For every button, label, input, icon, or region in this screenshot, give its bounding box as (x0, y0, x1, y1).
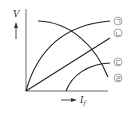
label-d: ㄹ (114, 74, 122, 83)
label-a: ㄱ (114, 17, 122, 26)
svg-text:ㄴ: ㄴ (115, 30, 121, 38)
y-axis-label: V (13, 9, 21, 19)
characteristic-curve-diagram: V If ㄱ ㄴ ㄷ ㄹ (0, 0, 132, 115)
svg-text:ㄱ: ㄱ (115, 18, 121, 26)
x-arrowhead-icon (71, 98, 77, 102)
svg-text:ㄷ: ㄷ (115, 59, 121, 67)
y-arrowhead-icon (14, 22, 18, 28)
label-b: ㄴ (114, 29, 122, 38)
x-axis-label: If (79, 95, 88, 107)
label-c: ㄷ (114, 58, 122, 67)
svg-text:ㄹ: ㄹ (115, 75, 121, 83)
